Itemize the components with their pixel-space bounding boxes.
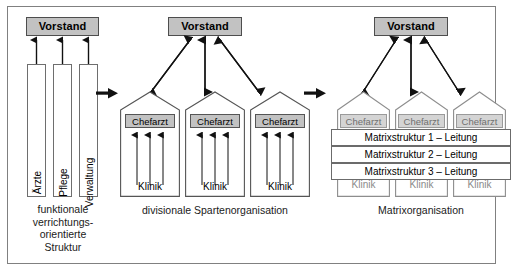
- caption-line: funktionale: [13, 203, 113, 216]
- klinik-label: Klinik: [120, 181, 180, 192]
- column-label-verwaltung: Verwaltung: [83, 158, 94, 207]
- caption-line: orientierte: [13, 228, 113, 241]
- caption-line: Struktur: [13, 241, 113, 254]
- matrix-bar-1: Matrixstruktur 1 – Leitung: [331, 129, 511, 146]
- chefarzt-box: Chefarzt: [255, 114, 305, 128]
- klinik-label: Klinik: [185, 181, 245, 192]
- klinik-label: Klinik: [453, 179, 506, 190]
- column-label-pflege: Pflege: [57, 168, 68, 196]
- klinik-label: Klinik: [337, 179, 390, 190]
- caption-line: Matrixorganisation: [336, 204, 506, 217]
- matrix-bar-2: Matrixstruktur 2 – Leitung: [331, 146, 511, 163]
- panel-divisional-organisation: Vorstand: [108, 7, 308, 263]
- column-label-aerzte: Ärzte: [31, 171, 42, 194]
- chefarzt-box: Chefarzt: [125, 114, 175, 128]
- figure-frame: Vorstand Ärzte Pflege: [7, 6, 496, 264]
- division-unit: Chefarzt Klinik: [120, 91, 180, 197]
- klinik-label: Klinik: [395, 179, 448, 190]
- caption-functional: funktionale verrichtungs- orientierte St…: [13, 203, 113, 253]
- klinik-label: Klinik: [250, 181, 310, 192]
- division-unit: Chefarzt Klinik: [185, 91, 245, 197]
- chefarzt-box: Chefarzt: [190, 114, 240, 128]
- panel-matrix-organisation: Vorstand Chefarzt Klinik: [326, 7, 497, 263]
- chefarzt-box: Chefarzt: [340, 114, 387, 128]
- caption-matrix: Matrixorganisation: [336, 204, 506, 217]
- caption-divisional: divisionale Spartenorganisation: [110, 204, 320, 217]
- chefarzt-box: Chefarzt: [456, 114, 503, 128]
- column-aerzte: Ärzte: [27, 64, 46, 197]
- caption-line: divisionale Spartenorganisation: [110, 204, 320, 217]
- division-unit: Chefarzt Klinik: [250, 91, 310, 197]
- caption-line: verrichtungs-: [13, 216, 113, 229]
- chefarzt-box: Chefarzt: [398, 114, 445, 128]
- column-pflege: Pflege: [53, 64, 72, 197]
- matrix-bar-3: Matrixstruktur 3 – Leitung: [331, 163, 511, 180]
- column-verwaltung: Verwaltung: [79, 64, 98, 197]
